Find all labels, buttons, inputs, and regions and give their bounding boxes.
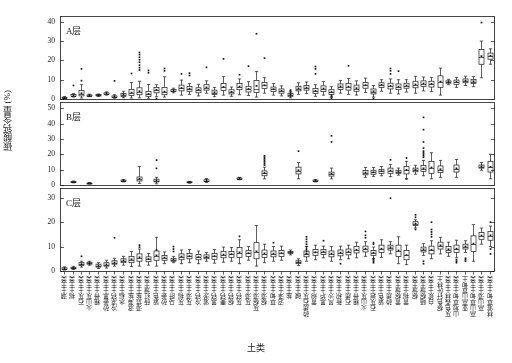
x-tick-label: 褐土土类 (69, 276, 76, 299)
x-tick-label: 火山灰土土类 (361, 276, 368, 311)
x-tick-label: 棕壤土类 (412, 276, 419, 299)
y-tick-label: 20 (29, 56, 55, 64)
y-tick-label: 40 (29, 120, 55, 128)
x-tick-label: 高山漠土土类 (478, 276, 485, 311)
x-tick-label: 砂姜土土类 (161, 276, 168, 305)
x-tick-label: 冷凉钙土土类 (111, 276, 118, 311)
y-axis-title: 碳酸钙含量 (%) (2, 90, 18, 151)
x-tick-label: 黄棕壤土类 (395, 276, 402, 305)
x-tick-label: 漠境盐土土类 (136, 276, 143, 311)
x-tick-label: 棕色针叶林土 (437, 276, 444, 311)
panel-tag-b: B层 (66, 110, 81, 123)
x-tick-label: 紫色土土类 (378, 276, 385, 305)
panel-tag-c: C层 (66, 196, 81, 209)
x-tick-label: 灰钙土土类 (236, 276, 243, 305)
x-tick-label: 亚高山草甸土 (462, 276, 469, 311)
x-tick-label: 石质土土类 (345, 276, 352, 305)
boxplot-figure: 碳酸钙含量 (%) 土类 A层 B层 C层 010203040010203040… (0, 0, 512, 363)
x-tick-label: 火山灰土土类 (86, 276, 93, 311)
x-tick-label: 粗骨土土类 (353, 276, 360, 305)
x-tick-label: 草甸土土类 (270, 276, 277, 305)
x-tick-label: 马肝土土类 (169, 276, 176, 305)
x-tick-label: 滨海盐土土类 (128, 276, 135, 311)
x-tick-label: 灌淤土土类 (203, 276, 210, 305)
y-tick-label: 40 (29, 18, 55, 26)
x-tick-label: 白浆土土类 (428, 276, 435, 305)
x-tick-label: 林灌草甸土土类 (487, 276, 494, 317)
x-tick-label: 磷质石灰土土类 (303, 276, 310, 317)
y-tick-label: 20 (29, 218, 55, 226)
x-tick-label: 冷钙土土类 (195, 276, 202, 305)
x-tick-label: 石灰岩土土类 (370, 276, 377, 311)
y-tick-label: 0 (29, 267, 55, 275)
x-tick-label: 碱土土类 (295, 276, 302, 299)
x-tick-label: 黄褐土土类 (403, 276, 410, 305)
x-tick-label: 紫色土土类 (153, 276, 160, 305)
x-tick-label: 水稻土土类 (119, 276, 126, 305)
y-tick-label: 50 (29, 104, 55, 112)
x-tick-label: 沼泽土土类 (278, 276, 285, 305)
y-tick-label: 0 (29, 181, 55, 189)
y-tick-label: 30 (29, 135, 55, 143)
x-tick-label: 新积土土类 (336, 276, 343, 305)
x-tick-label: 灰漠土土类 (186, 276, 193, 305)
x-tick-label: 黄绵土土类 (311, 276, 318, 305)
x-tick-label: 磷质土土类 (386, 276, 393, 305)
y-tick-label: 10 (29, 166, 55, 174)
x-tick-label: 黑钙土土类 (211, 276, 218, 305)
x-tick-label: 灰褐土土类 (178, 276, 185, 305)
x-tick-label: 盐土土类 (286, 276, 293, 299)
y-tick-label: 20 (29, 150, 55, 158)
x-tick-label: 棕漠土土类 (261, 276, 268, 305)
x-tick-label: 灰棕漠土土类 (253, 276, 260, 311)
panel-tag-a: A层 (66, 24, 82, 37)
x-tick-label: 粗骨土土类 (94, 276, 101, 305)
x-tick-label: 石灰土土类 (78, 276, 85, 305)
x-tick-label: 砂姜黑土土类 (103, 276, 110, 311)
x-tick-label: 栗钙土土类 (220, 276, 227, 305)
x-tick-label: 砖红壤土类 (144, 276, 151, 305)
x-tick-label: 灰色森林土土类 (445, 276, 452, 317)
y-tick-label: 0 (29, 95, 55, 103)
x-tick-label: 山地草甸土土类 (453, 276, 460, 317)
x-tick-label: 暗棕壤土类 (420, 276, 427, 305)
x-tick-label: 黑垆土土类 (320, 276, 327, 305)
x-tick-label: 高山草甸土土类 (470, 276, 477, 317)
x-tick-label: 潮土土类 (61, 276, 68, 299)
x-tick-label: 棕钙土土类 (228, 276, 235, 305)
y-tick-label: 30 (29, 37, 55, 45)
y-tick-label: 10 (29, 243, 55, 251)
x-tick-label: 风沙土土类 (328, 276, 335, 305)
x-axis-title: 土类 (0, 341, 512, 354)
x-tick-label: 灰漠土土类 (245, 276, 252, 305)
y-tick-label: 30 (29, 194, 55, 202)
y-tick-label: 10 (29, 76, 55, 84)
